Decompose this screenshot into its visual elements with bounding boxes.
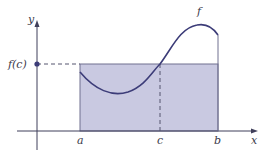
fc-point [34, 61, 39, 66]
x-axis-label: x [251, 134, 258, 147]
mean-value-rectangle [80, 64, 218, 131]
mvt-integral-diagram: y x f f(c) a c b [0, 0, 268, 156]
c-label: c [157, 134, 163, 147]
a-label: a [77, 134, 84, 147]
fc-label: f(c) [7, 58, 27, 71]
y-axis-label: y [27, 13, 35, 26]
x-axis-arrow-icon [251, 129, 258, 134]
y-axis-arrow-icon [35, 20, 40, 27]
b-label: b [214, 134, 221, 147]
function-label: f [196, 5, 203, 18]
